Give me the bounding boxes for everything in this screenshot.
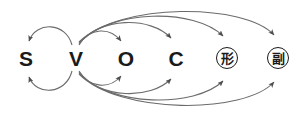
node-subject: S xyxy=(19,48,33,69)
node-object: O xyxy=(118,48,134,69)
node-complement: C xyxy=(168,48,183,69)
node-adverb: 副 xyxy=(267,47,289,69)
node-adjective: 形 xyxy=(216,47,238,69)
node-subject-label: S xyxy=(19,47,33,70)
node-verb-label: V xyxy=(69,47,83,70)
node-object-label: O xyxy=(118,47,134,70)
node-adverb-label: 副 xyxy=(272,52,285,65)
diagram-canvas: S V O C 形 副 xyxy=(0,0,301,118)
node-layer: S V O C 形 副 xyxy=(0,0,301,118)
node-adjective-circle: 形 xyxy=(216,47,238,69)
node-verb: V xyxy=(69,48,83,69)
node-complement-label: C xyxy=(168,47,183,70)
node-adjective-label: 形 xyxy=(221,52,234,65)
node-adverb-circle: 副 xyxy=(267,47,289,69)
